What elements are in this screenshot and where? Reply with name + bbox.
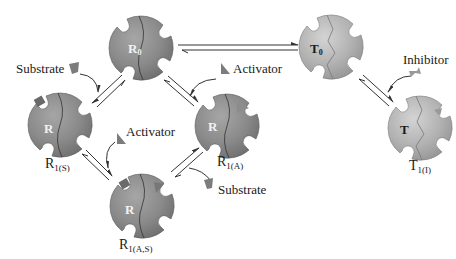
node-t0-inner-label: T0 [310, 42, 323, 57]
node-r1as-label: R1(A,S) [119, 238, 153, 254]
node-r1s-label: R1(S) [45, 157, 70, 173]
node-r1s [28, 93, 92, 157]
activator-icon [117, 133, 126, 144]
substrate-icon [69, 62, 79, 74]
equilibrium-r0-r1s [92, 75, 125, 107]
equilibrium-r0-r1a [164, 76, 198, 106]
allosteric-diagram [0, 0, 456, 259]
node-r1as-inner-label: R [125, 203, 134, 216]
activator-binding-curve-top [190, 79, 216, 96]
node-t1i [388, 96, 452, 160]
node-r1a-label: R1(A) [217, 155, 243, 171]
substrate-label: Substrate [16, 62, 64, 75]
substrate-label: Substrate [218, 183, 266, 196]
node-r1a [195, 94, 259, 158]
node-r1s-inner-label: R [44, 122, 53, 135]
activator-label: Activator [233, 62, 282, 75]
node-r1as [110, 174, 174, 238]
substrate-binding-curve [80, 74, 98, 92]
node-t1i-label: T1(I) [409, 159, 431, 175]
substrate-icon [204, 178, 213, 189]
node-t0 [299, 15, 363, 79]
inhibitor-label: Inhibitor [403, 53, 449, 66]
node-t1i-inner-label: T [400, 123, 409, 136]
activator-icon [221, 63, 230, 74]
activator-binding-curve-mid [107, 142, 115, 168]
equilibrium-t0-t1i [359, 75, 393, 106]
equilibrium-r1a-r1as [171, 148, 203, 177]
node-r0-inner-label: R0 [128, 42, 141, 57]
activator-label: Activator [126, 125, 175, 138]
equilibrium-r0-t0 [178, 45, 298, 53]
substrate-binding-curve-bottom [189, 168, 211, 181]
inhibitor-icon [409, 67, 421, 77]
inhibitor-binding-curve [388, 76, 411, 92]
node-r1a-inner-label: R [208, 120, 217, 133]
